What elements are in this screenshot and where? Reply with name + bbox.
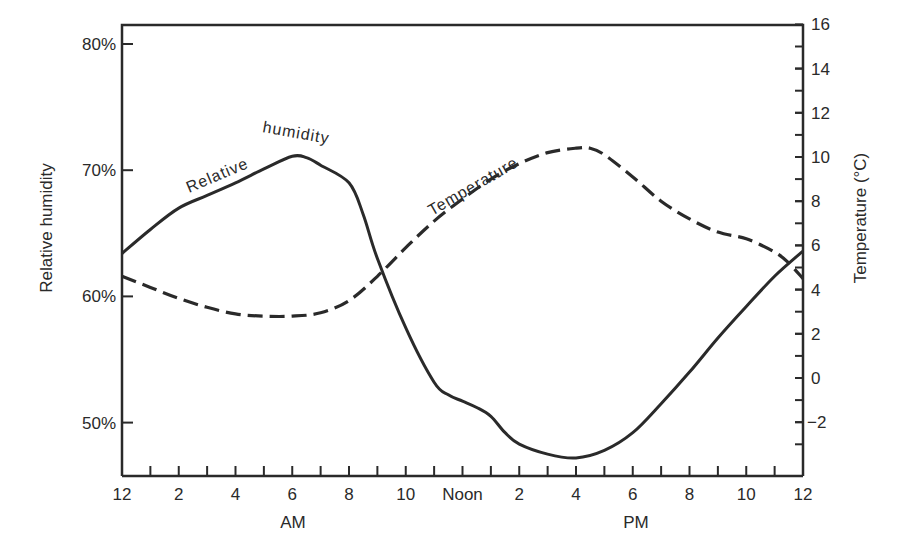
y2-tick-label: 10: [811, 148, 830, 167]
x-axis-am-label: AM: [280, 513, 306, 532]
y2-axis-title: Temperature (°C): [851, 153, 870, 284]
x-tick-label: 2: [515, 485, 524, 504]
x-tick-label: 8: [344, 485, 353, 504]
x-tick-label: 8: [685, 485, 694, 504]
y-axis-title: Relative humidity: [37, 163, 56, 293]
y2-tick-label: 0: [811, 369, 820, 388]
y-tick-label: 50%: [82, 414, 116, 433]
x-tick-label: 12: [113, 485, 132, 504]
y2-tick-label: −2: [807, 413, 826, 432]
y2-tick-label: 4: [811, 281, 820, 300]
y-tick-label: 60%: [82, 287, 116, 306]
y2-tick-label: 2: [811, 325, 820, 344]
y-tick-label: 70%: [82, 161, 116, 180]
x-tick-label: 10: [396, 485, 415, 504]
y2-tick-label: 14: [811, 60, 830, 79]
y-tick-label: 80%: [82, 35, 116, 54]
x-axis-pm-label: PM: [623, 513, 649, 532]
x-tick-label: 10: [737, 485, 756, 504]
x-tick-label: 4: [231, 485, 240, 504]
x-tick-label: 6: [288, 485, 297, 504]
y2-tick-label: 16: [811, 15, 830, 34]
y2-tick-label: 6: [811, 236, 820, 255]
x-tick-label: Noon: [442, 485, 483, 504]
x-tick-label: 4: [571, 485, 580, 504]
x-tick-label: 2: [174, 485, 183, 504]
x-tick-label: 6: [628, 485, 637, 504]
x-tick-label: 12: [794, 485, 813, 504]
y2-tick-label: 8: [811, 192, 820, 211]
y2-tick-label: 12: [811, 104, 830, 123]
chart-background: [0, 0, 903, 553]
chart: 50%60%70%80% −20246810121416 12246810Noo…: [0, 0, 903, 553]
